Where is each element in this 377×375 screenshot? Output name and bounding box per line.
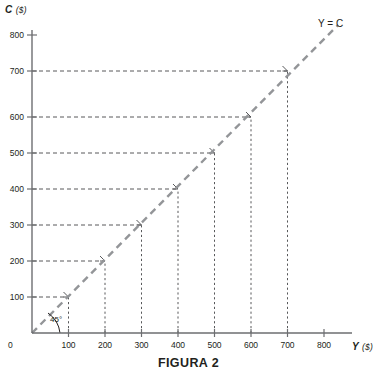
x-tick-label-400: 400: [163, 340, 193, 350]
angle-label-45-degrees: 45°: [50, 315, 62, 324]
x-tick-label-600: 600: [236, 340, 266, 350]
y-tick-label-500: 500: [0, 148, 24, 158]
x-tick-label-200: 200: [90, 340, 120, 350]
x-tick-label-300: 300: [127, 340, 157, 350]
figure-caption: FIGURA 2: [0, 356, 377, 370]
y-axis-label: C ($): [5, 4, 27, 15]
horizontal-guide-lines: [32, 71, 288, 297]
origin-tick-label: 0: [8, 340, 13, 350]
y-tick-label-300: 300: [0, 220, 24, 230]
y-tick-label-600: 600: [0, 112, 24, 122]
y-tick-label-400: 400: [0, 184, 24, 194]
y-axis-label-unit: ($): [16, 5, 27, 15]
x-axis-label: Y ($): [352, 341, 373, 352]
y-tick-label-700: 700: [0, 66, 24, 76]
x-tick-label-700: 700: [273, 340, 303, 350]
x-axis-label-unit: ($): [362, 342, 373, 352]
x-tick-label-100: 100: [54, 340, 84, 350]
y-axis-label-name: C: [5, 4, 13, 15]
x-tick-label-800: 800: [309, 340, 339, 350]
arrowhead-300: [137, 220, 142, 225]
x-tick-label-500: 500: [200, 340, 230, 350]
y-tick-label-800: 800: [0, 30, 24, 40]
guide-arrowheads: [64, 66, 288, 297]
x-axis-label-name: Y: [352, 341, 359, 352]
y-tick-label-200: 200: [0, 256, 24, 266]
y-tick-label-100: 100: [0, 292, 24, 302]
arrowhead-700: [283, 66, 288, 71]
line-label-y-equals-c: Y = C: [318, 18, 343, 29]
